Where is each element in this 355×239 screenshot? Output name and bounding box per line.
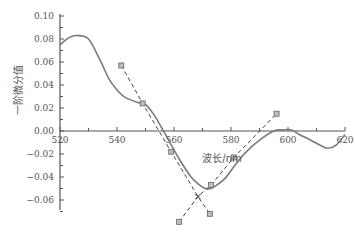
x-tick-label: 600 bbox=[279, 135, 296, 145]
y-tick-label: −0.02 bbox=[26, 149, 54, 159]
y-tick-label: 0.06 bbox=[34, 57, 54, 67]
y-tick-label: 0.10 bbox=[34, 11, 54, 21]
x-tick-label: 620 bbox=[336, 135, 353, 145]
data-marker bbox=[140, 101, 145, 106]
chart-svg: 0.100.080.060.040.020.00−0.02−0.04−0.065… bbox=[0, 0, 355, 239]
y-tick-label: −0.06 bbox=[26, 195, 54, 205]
data-marker bbox=[169, 149, 174, 154]
data-marker bbox=[177, 219, 182, 224]
y-tick-label: 0.08 bbox=[34, 34, 54, 44]
data-marker bbox=[207, 211, 212, 216]
x-tick-label: 540 bbox=[108, 135, 125, 145]
x-tick-label: 520 bbox=[51, 135, 68, 145]
axes: 0.100.080.060.040.020.00−0.02−0.04−0.065… bbox=[26, 11, 353, 212]
data-marker bbox=[274, 111, 279, 116]
x-tick-label: 580 bbox=[222, 135, 239, 145]
series-tangent-line-right bbox=[179, 114, 276, 222]
data-marker bbox=[209, 183, 214, 188]
y-axis-title: 一阶微分值 bbox=[12, 65, 24, 115]
y-tick-label: 0.02 bbox=[34, 103, 54, 113]
series-first-derivative-curve bbox=[60, 36, 345, 189]
x-axis-title: 波长/nm bbox=[202, 152, 241, 164]
y-tick-label: −0.04 bbox=[26, 172, 54, 182]
y-tick-label: 0.04 bbox=[34, 80, 54, 90]
data-marker bbox=[119, 63, 124, 68]
